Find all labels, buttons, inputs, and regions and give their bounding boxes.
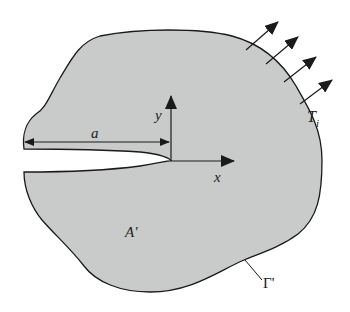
crack-length-label: a	[91, 125, 99, 141]
area-label: A'	[124, 224, 138, 240]
contour-label: Γ'	[263, 275, 275, 291]
traction-arrow-2	[266, 37, 298, 64]
traction-arrow-3	[284, 57, 316, 82]
x-axis-label: x	[213, 169, 221, 185]
y-axis-label: y	[153, 107, 162, 123]
contour-leader-line	[245, 260, 262, 280]
cracked-body-diagram: a y x Ti A' Γ'	[0, 0, 350, 312]
traction-arrow-4	[300, 80, 332, 104]
traction-arrow-1	[246, 22, 278, 50]
